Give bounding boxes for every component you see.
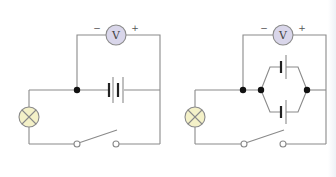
left-top-wire — [77, 35, 106, 90]
left-voltmeter-minus: − — [93, 23, 101, 33]
right-voltmeter-plus: + — [298, 23, 306, 33]
left-lamp-icon — [19, 107, 39, 127]
left-voltmeter-icon: V − + — [93, 23, 139, 45]
left-junction-dot — [74, 87, 80, 93]
upper-cell-icon — [281, 55, 286, 79]
lower-branch-left — [261, 90, 281, 112]
right-switch-icon — [241, 130, 286, 147]
upper-branch-right — [286, 67, 307, 90]
left-battery-icon — [108, 77, 123, 103]
right-voltmeter-label: V — [278, 29, 288, 42]
page-edge-shadow — [328, 0, 336, 177]
right-lamp-icon — [185, 107, 205, 127]
left-voltmeter-plus: + — [131, 23, 139, 33]
right-top-wire — [243, 35, 273, 90]
upper-branch-left — [261, 67, 281, 90]
right-junction-dot-1 — [240, 87, 246, 93]
right-junction-dot-2 — [258, 87, 264, 93]
right-junction-dot-3 — [304, 87, 310, 93]
left-voltmeter-label: V — [111, 29, 121, 42]
lower-branch-right — [286, 90, 307, 112]
circuit-diagram: V − + V − + — [0, 0, 336, 177]
right-voltmeter-icon: V − + — [260, 23, 306, 45]
left-switch-icon — [74, 130, 119, 147]
left-circuit — [29, 35, 160, 144]
right-voltmeter-minus: − — [260, 23, 268, 33]
lower-cell-icon — [281, 100, 286, 124]
